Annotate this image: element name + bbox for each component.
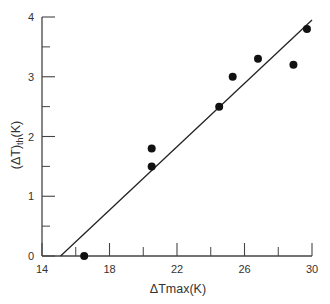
fit-line — [61, 20, 312, 256]
data-point-marker — [303, 25, 311, 33]
x-tick-label: 22 — [171, 263, 183, 275]
regression-line — [61, 20, 312, 256]
x-tick-label: 30 — [306, 263, 318, 275]
data-point-marker — [229, 73, 237, 81]
x-axis-title: ΔTmax(K) — [150, 282, 206, 296]
y-tick-label: 4 — [28, 11, 34, 23]
x-tick-label: 18 — [103, 263, 115, 275]
y-tick-label: 1 — [28, 190, 34, 202]
data-point-marker — [80, 252, 88, 260]
data-point-marker — [254, 55, 262, 63]
x-tick-label: 26 — [238, 263, 250, 275]
data-point-marker — [148, 144, 156, 152]
data-point-marker — [289, 61, 297, 69]
data-point-marker — [215, 103, 223, 111]
y-tick-label: 2 — [28, 131, 34, 143]
data-points — [80, 25, 311, 260]
x-tick-label: 14 — [36, 263, 48, 275]
data-point-marker — [148, 162, 156, 170]
axes: 012341418222630 — [28, 11, 318, 275]
scatter-chart: 012341418222630 ΔTmax(K) (ΔT)th(K) — [0, 0, 330, 304]
y-axis-title: (ΔT)th(K) — [9, 121, 25, 170]
y-tick-label: 0 — [28, 250, 34, 262]
y-tick-label: 3 — [28, 71, 34, 83]
